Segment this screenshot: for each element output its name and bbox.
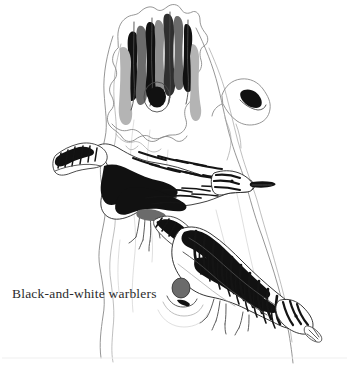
plate-caption: Black-and-white warblers <box>12 286 157 302</box>
black-and-white-warblers-illustration <box>0 0 349 365</box>
broken-stump-top <box>107 5 207 156</box>
illustration-plate: Black-and-white warblers <box>0 0 349 365</box>
trunk-knot-hole <box>212 79 270 160</box>
